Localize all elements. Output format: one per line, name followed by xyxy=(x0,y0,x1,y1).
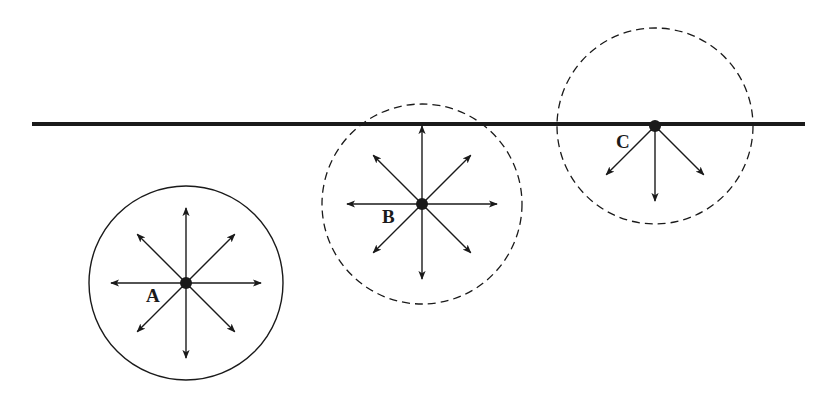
force-arrow-down-left-icon xyxy=(373,204,422,253)
force-arrow-down-right-icon xyxy=(422,204,471,253)
force-arrow-down-left-icon xyxy=(137,283,186,332)
force-arrow-up-right-icon xyxy=(186,234,235,283)
force-arrow-down-right-icon xyxy=(655,126,704,175)
molecule-dot-c xyxy=(649,120,661,132)
force-arrow-up-left-icon xyxy=(137,234,186,283)
force-arrow-up-left-icon xyxy=(373,155,422,204)
force-arrow-up-right-icon xyxy=(422,155,471,204)
molecule-a: A xyxy=(89,186,283,380)
molecule-b: B xyxy=(322,104,522,304)
molecule-label-b: B xyxy=(382,206,395,227)
force-arrow-down-left-icon xyxy=(606,126,655,175)
molecule-label-a: A xyxy=(146,285,160,306)
diagram-canvas: ABC xyxy=(0,0,831,401)
molecule-dot-b xyxy=(416,198,428,210)
force-arrow-down-right-icon xyxy=(186,283,235,332)
molecules-group: ABC xyxy=(89,28,753,380)
molecule-dot-a xyxy=(180,277,192,289)
molecule-label-c: C xyxy=(616,131,630,152)
